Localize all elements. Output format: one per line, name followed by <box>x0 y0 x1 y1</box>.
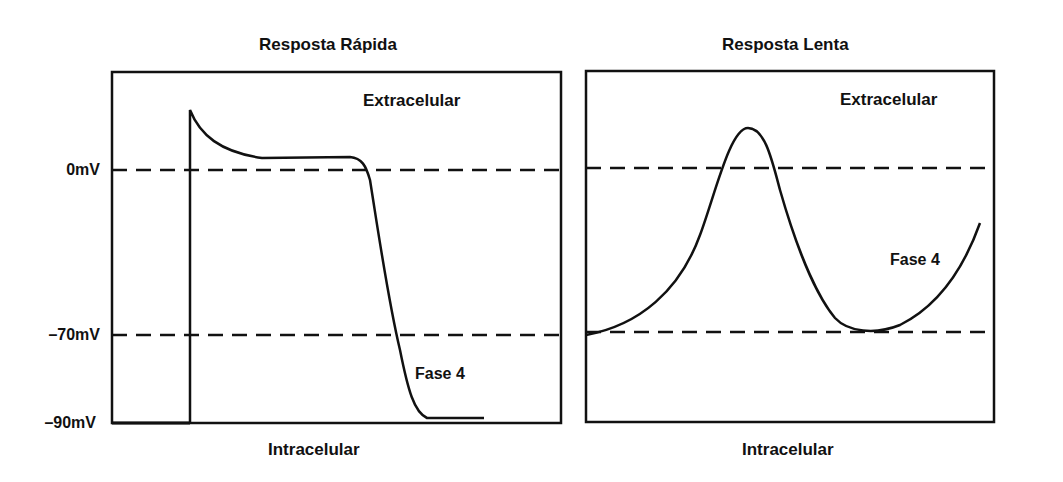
intracellular-label-left: Intracelular <box>268 440 360 460</box>
phase-4-label-left: Fase 4 <box>415 365 465 383</box>
axis-label-minus90mv: –90mV <box>16 414 96 432</box>
slow-action-potential-curve <box>586 128 980 335</box>
intracellular-label-right: Intracelular <box>742 440 834 460</box>
fast-response-title: Resposta Rápida <box>259 35 397 55</box>
slow-response-frame <box>586 71 994 422</box>
phase-4-label-right: Fase 4 <box>890 251 940 269</box>
action-potential-diagram <box>0 0 1063 482</box>
axis-label-0mv: 0mV <box>20 161 100 179</box>
extracellular-label-left: Extracelular <box>363 91 460 111</box>
fast-response-panel <box>112 72 561 423</box>
axis-label-minus70mv: –70mV <box>20 326 100 344</box>
fast-response-frame <box>112 72 561 423</box>
slow-response-title: Resposta Lenta <box>722 35 849 55</box>
slow-response-panel <box>586 71 994 422</box>
extracellular-label-right: Extracelular <box>840 90 937 110</box>
